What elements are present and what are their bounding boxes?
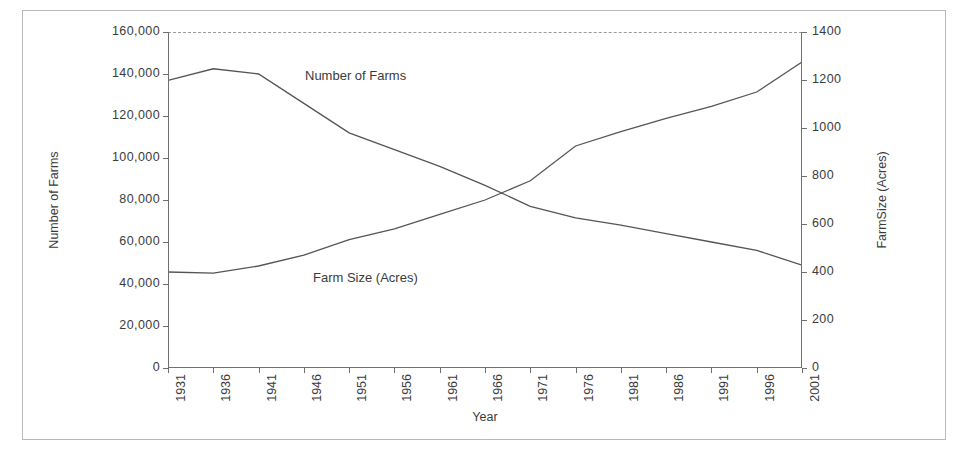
series-label-number-of-farms: Number of Farms [305,68,406,83]
x-axis-tick-label: 1951 [355,374,369,402]
x-axis-tick-label: 1936 [219,374,233,402]
x-axis-tick-label: 1986 [672,374,686,402]
series-label-farm-size: Farm Size (Acres) [313,270,418,285]
x-axis-tick-label: 1976 [582,374,596,402]
x-axis-tick-label: 1971 [536,374,550,402]
x-axis-tick-label: 1956 [400,374,414,402]
chart-figure: 020,00040,00060,00080,000100,000120,0001… [0,0,968,452]
x-axis-tick-label: 1996 [763,374,777,402]
x-axis-tick-label: 1981 [627,374,641,402]
x-axis-tick-label: 1946 [310,374,324,402]
x-axis-tick-label: 1961 [446,374,460,402]
x-axis-tick-label: 1991 [717,374,731,402]
series-line-number-of-farms [168,69,802,265]
x-axis-tick-label: 1966 [491,374,505,402]
plot-area [168,32,802,368]
x-axis-tick-label: 2001 [808,374,822,402]
x-axis-tick-label: 1931 [174,374,188,402]
x-axis-tick-label: 1941 [265,374,279,402]
plot-lines [168,32,802,368]
